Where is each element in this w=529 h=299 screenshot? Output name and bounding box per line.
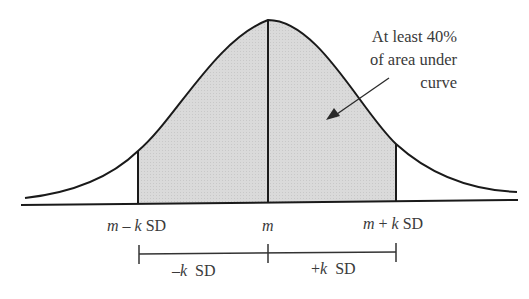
label-mean: m bbox=[262, 218, 274, 234]
label-m-plus-ksd: m + k SD bbox=[363, 216, 423, 232]
annotation-line-1: At least 40% bbox=[370, 25, 457, 48]
annotation-text: At least 40% of area under curve bbox=[370, 25, 457, 94]
label-m-minus-ksd: m – k SD bbox=[107, 218, 166, 234]
label-minus-ksd: –k SD bbox=[172, 263, 216, 279]
annotation-line-2: of area under bbox=[370, 48, 457, 71]
annotation-line-3: curve bbox=[370, 71, 457, 94]
label-plus-ksd: +k SD bbox=[311, 261, 356, 277]
